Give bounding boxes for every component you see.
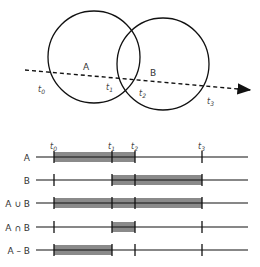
timeline-label-t1: t1 [108, 142, 115, 152]
circle-b [117, 18, 209, 110]
row-label: B [24, 176, 30, 186]
ray-label-t3: t3 [207, 97, 214, 107]
timeline-row-a: A [24, 151, 248, 163]
circle-b-label: B [150, 68, 156, 78]
timeline-row-difference: A – B [7, 244, 248, 256]
ray-label-t1: t1 [106, 83, 113, 93]
set-operations-diagram: A B t0 t1 t2 t3 t0 t1 t2 t3 A B A ∪ B [0, 0, 260, 267]
timeline-row-union: A ∪ B [5, 197, 248, 209]
row-label: A – B [7, 246, 30, 256]
venn-diagram: A B t0 t1 t2 t3 [25, 11, 250, 110]
row-label: A [24, 153, 31, 163]
row-label: A ∩ B [5, 223, 30, 233]
timeline-header: t0 t1 t2 t3 [50, 142, 205, 152]
circle-a-label: A [83, 62, 90, 72]
ray-label-t2: t2 [139, 89, 146, 99]
timeline-label-t2: t2 [131, 142, 138, 152]
circle-a [48, 11, 140, 103]
timeline-label-t0: t0 [50, 142, 57, 152]
timeline-row-b: B [24, 174, 248, 186]
ray-label-t0: t0 [38, 85, 45, 95]
timeline-row-intersection: A ∩ B [5, 221, 248, 233]
row-label: A ∪ B [5, 199, 30, 209]
timeline-label-t3: t3 [198, 142, 205, 152]
